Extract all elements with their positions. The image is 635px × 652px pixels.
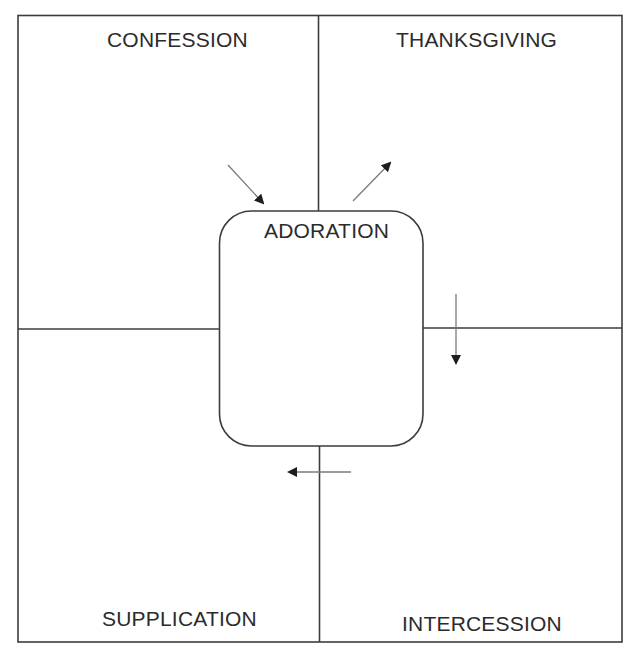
quadrant-supplication: SUPPLICATION xyxy=(18,329,319,642)
confession-label: CONFESSION xyxy=(107,29,248,50)
quadrant-intercession: INTERCESSION xyxy=(319,328,622,642)
quadrant-confession: CONFESSION xyxy=(18,15,318,329)
supplication-label: SUPPLICATION xyxy=(102,608,257,629)
thanksgiving-label: THANKSGIVING xyxy=(396,29,557,50)
quadrant-thanksgiving: THANKSGIVING xyxy=(318,15,622,328)
acts-prayer-diagram: CONFESSION THANKSGIVING SUPPLICATION INT… xyxy=(0,0,635,652)
intercession-label: INTERCESSION xyxy=(402,613,562,634)
adoration-label: ADORATION xyxy=(264,220,389,241)
